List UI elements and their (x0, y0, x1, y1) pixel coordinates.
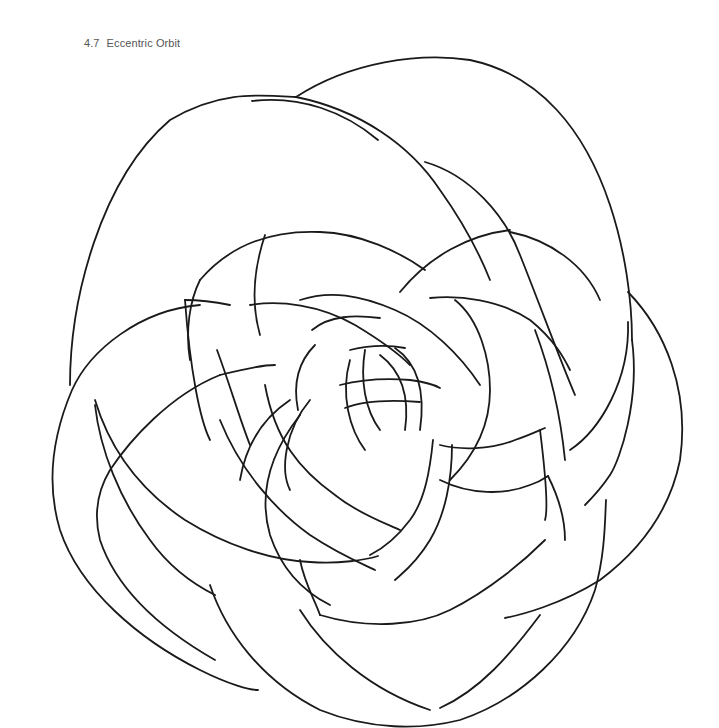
knot-band-outline (95, 405, 215, 595)
knot-band-outline (585, 340, 634, 505)
knot-band-outline (570, 322, 628, 450)
knot-band-outline (200, 232, 425, 280)
knot-band-outline (255, 235, 265, 335)
knot-band-outline (370, 440, 433, 555)
knot-band-outline (320, 540, 545, 624)
knot-band-outline (440, 615, 540, 708)
knot-band-outline (252, 100, 378, 140)
knot-band-outline (430, 297, 570, 370)
knot-band-outline (285, 400, 310, 490)
knot-band-outline (363, 350, 380, 430)
knot-band-outline (340, 379, 440, 388)
knot-band-outline (380, 355, 406, 430)
knot-band-outline (300, 610, 430, 710)
knot-band-outline (345, 401, 420, 408)
knot-band-outline (548, 476, 565, 540)
knot-band-outline (425, 162, 575, 395)
knot-band-outline (540, 430, 546, 520)
knot-band-outline (440, 476, 548, 492)
knot-band-outline (265, 415, 330, 605)
knot-band-outline (300, 295, 480, 385)
knot-band-outline (450, 300, 490, 480)
knot-band-outline (440, 428, 545, 448)
knot-band-outline (535, 330, 565, 460)
knot-band-outline (395, 348, 422, 430)
celtic-knot-artwork (0, 0, 719, 728)
knot-band-outline (312, 316, 380, 330)
knot-band-outline (296, 345, 315, 410)
knot-band-outline (505, 292, 682, 618)
knot-band-outline (400, 230, 510, 292)
knot-band-outline (217, 350, 250, 445)
knot-band-outline (395, 445, 452, 580)
knot-band-outline (95, 400, 378, 563)
knot-band-outline (220, 365, 275, 375)
knot-band-outline (70, 95, 490, 385)
knot-band-outline (250, 303, 410, 365)
